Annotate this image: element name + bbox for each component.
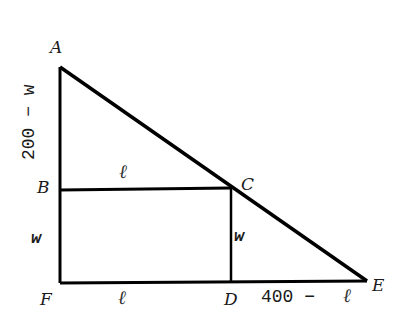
label-CD-length: w [234,227,245,246]
triangle-diagram: A B C D E F 200 − w ℓ w w ℓ 400 − ℓ [0,0,409,327]
label-FD-length: ℓ [118,286,126,308]
point-label-F: F [39,289,53,309]
segment-BC [60,188,231,190]
point-label-B: B [36,177,50,197]
point-label-A: A [48,37,62,57]
segment-FE [60,281,367,283]
label-AB-length: 200 − w [19,84,39,160]
point-label-D: D [223,289,238,309]
label-BC-length: ℓ [119,160,127,182]
label-BF-length: w [31,229,42,248]
point-label-C: C [241,174,254,194]
point-label-E: E [371,275,385,295]
label-DE-length-number: 400 − [261,287,315,307]
label-DE-length-var: ℓ [343,284,351,306]
segment-AE-hypotenuse [60,67,367,281]
